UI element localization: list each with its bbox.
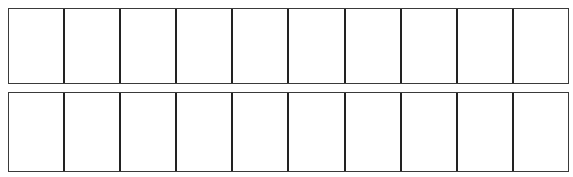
grid-cell bbox=[121, 93, 177, 171]
grid-cell bbox=[177, 9, 233, 83]
grid-cell bbox=[9, 9, 65, 83]
grid-cell bbox=[514, 93, 568, 171]
grid-cell bbox=[289, 9, 345, 83]
grid-cell bbox=[121, 9, 177, 83]
grid-cell bbox=[289, 93, 345, 171]
grid-cell bbox=[65, 9, 121, 83]
grid-cell bbox=[458, 93, 514, 171]
grid-cell bbox=[233, 9, 289, 83]
grid-cell bbox=[346, 93, 402, 171]
grid-cell bbox=[514, 9, 568, 83]
grid-cell bbox=[65, 93, 121, 171]
grid-cell bbox=[177, 93, 233, 171]
top-grid-row bbox=[8, 8, 569, 84]
grid-cell bbox=[233, 93, 289, 171]
grid-cell bbox=[402, 9, 458, 83]
grid-cell bbox=[402, 93, 458, 171]
grid-cell bbox=[9, 93, 65, 171]
bottom-grid-row bbox=[8, 92, 569, 172]
grid-cell bbox=[458, 9, 514, 83]
grid-cell bbox=[346, 9, 402, 83]
